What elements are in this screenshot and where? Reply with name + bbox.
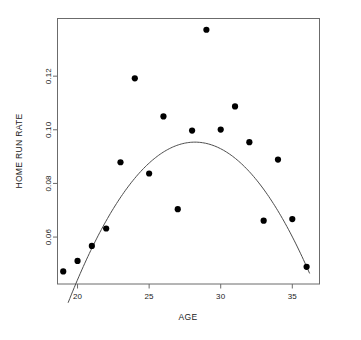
y-tick-label: 0.08 bbox=[44, 175, 53, 192]
data-point bbox=[261, 218, 267, 224]
data-point bbox=[146, 170, 152, 176]
data-point bbox=[74, 258, 80, 264]
data-point bbox=[132, 75, 138, 81]
data-point bbox=[275, 156, 281, 162]
data-point bbox=[289, 216, 295, 222]
data-point bbox=[203, 27, 209, 33]
chart-figure: 0.060.080.100.12 20253035 AGE HOME RUN R… bbox=[0, 0, 361, 340]
data-point bbox=[218, 126, 224, 132]
y-tick-label: 0.12 bbox=[44, 68, 53, 85]
data-point bbox=[304, 264, 310, 270]
data-point bbox=[189, 128, 195, 134]
y-axis-title: HOME RUN RATE bbox=[14, 113, 24, 188]
data-point bbox=[103, 225, 109, 231]
x-axis-title: AGE bbox=[178, 312, 197, 322]
data-point bbox=[175, 206, 181, 212]
x-tick-label: 30 bbox=[216, 292, 226, 301]
data-point bbox=[89, 243, 95, 249]
y-tick-label: 0.06 bbox=[44, 229, 53, 246]
data-point bbox=[160, 113, 166, 119]
data-point bbox=[246, 139, 252, 145]
y-tick-label: 0.10 bbox=[44, 121, 53, 138]
x-tick-label: 25 bbox=[144, 292, 154, 301]
data-point bbox=[117, 159, 123, 165]
figure-background bbox=[0, 0, 361, 340]
scatter-plot-svg: 0.060.080.100.12 20253035 AGE HOME RUN R… bbox=[0, 0, 361, 340]
x-tick-label: 20 bbox=[73, 292, 83, 301]
x-tick-label: 35 bbox=[288, 292, 298, 301]
data-point bbox=[232, 103, 238, 109]
data-point bbox=[60, 268, 66, 274]
